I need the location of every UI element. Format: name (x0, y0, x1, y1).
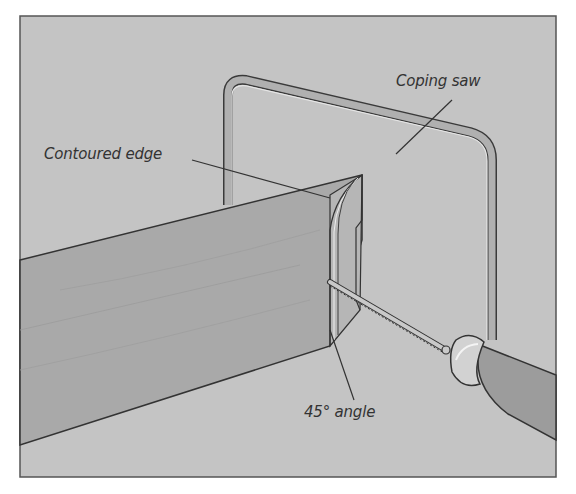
coping-saw-illustration (0, 0, 576, 494)
angle-label: 45° angle (304, 403, 375, 421)
coping-saw-label: Coping saw (396, 72, 480, 90)
contoured-edge-label: Contoured edge (44, 145, 162, 163)
